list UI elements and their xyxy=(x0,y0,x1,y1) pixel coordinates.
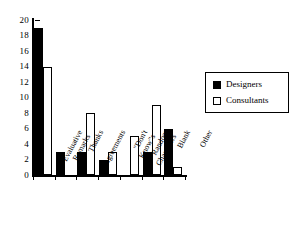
bar-consultants xyxy=(43,67,52,176)
y-axis-tick xyxy=(35,175,40,176)
legend-item-designers: Designers xyxy=(213,79,262,90)
y-axis-tick-label: 20 xyxy=(0,16,29,25)
y-axis-tick-label-wrap: 6 xyxy=(0,124,29,133)
y-axis-tick-label: 12 xyxy=(0,78,29,87)
legend-item-label: Consultants xyxy=(226,96,269,105)
bar-consultants xyxy=(173,167,182,175)
y-axis-tick-label-wrap: 12 xyxy=(0,78,29,87)
y-axis-tick-label-wrap: 4 xyxy=(0,140,29,149)
y-axis-tick-label: 2 xyxy=(0,155,29,164)
y-axis-tick-label: 10 xyxy=(0,93,29,102)
bar-designers xyxy=(34,28,43,175)
y-axis-tick-label: 6 xyxy=(0,124,29,133)
y-axis-tick-label-wrap: 18 xyxy=(0,31,29,40)
bar-chart-figure: 20181614121086420 EvaluativeRemarksThank… xyxy=(0,0,295,241)
y-axis-tick-label-wrap: 2 xyxy=(0,155,29,164)
y-axis-tick-label-wrap: 14 xyxy=(0,62,29,71)
y-axis-tick-label: 0 xyxy=(0,171,29,180)
open-square-icon xyxy=(213,97,221,105)
y-axis-tick-label: 18 xyxy=(0,31,29,40)
filled-square-icon xyxy=(213,81,221,89)
y-axis-tick-label-wrap: 16 xyxy=(0,47,29,56)
y-axis-tick-label: 14 xyxy=(0,62,29,71)
y-axis-tick-label-wrap: 10 xyxy=(0,93,29,102)
y-axis-tick-label-wrap: 20 xyxy=(0,16,29,25)
chart-legend: Designers Consultants xyxy=(205,72,289,113)
y-axis-tick-label-wrap: 8 xyxy=(0,109,29,118)
y-axis-tick-label-wrap: 0 xyxy=(0,171,29,180)
y-axis-tick-label: 16 xyxy=(0,47,29,56)
legend-item-label: Designers xyxy=(226,80,262,89)
legend-item-consultants: Consultants xyxy=(213,95,269,106)
y-axis-tick-label: 4 xyxy=(0,140,29,149)
x-axis-tick xyxy=(33,175,34,180)
bar-group xyxy=(34,20,56,175)
y-axis-tick-label: 8 xyxy=(0,109,29,118)
